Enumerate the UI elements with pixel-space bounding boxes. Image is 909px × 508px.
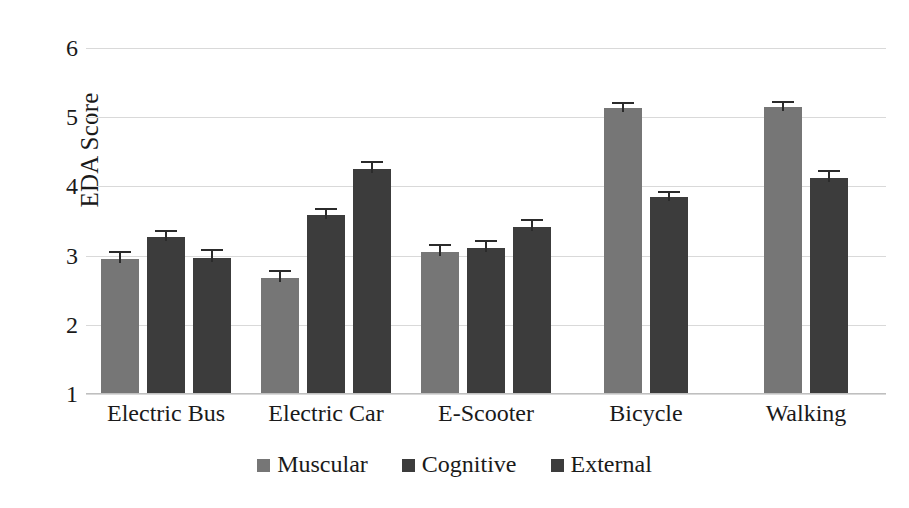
legend-item-external[interactable]: External [551,452,652,476]
y-axis-tick-label: 6 [38,35,78,62]
gridline [86,394,886,395]
x-axis-baseline [86,393,886,394]
gridline [86,48,886,49]
y-axis-tick-label: 5 [38,104,78,131]
legend-label: External [571,452,652,476]
bar-electric-car-muscular [261,278,299,394]
bar-walking-cognitive [810,178,848,394]
chart-legend: MuscularCognitiveExternal [0,452,909,476]
y-axis-tick-label: 2 [38,311,78,338]
bar-walking-muscular [764,107,802,394]
x-axis-tick-label-e-scooter: E-Scooter [438,400,534,427]
plot-area [86,48,886,394]
legend-swatch-icon [257,459,270,472]
x-axis-tick-label-walking: Walking [766,400,847,427]
legend-label: Cognitive [422,452,517,476]
legend-item-muscular[interactable]: Muscular [257,452,368,476]
x-axis-tick-label-electric-bus: Electric Bus [107,400,225,427]
legend-label: Muscular [277,452,368,476]
bar-electric-bus-muscular [101,259,139,394]
eda-score-bar-chart: EDA Score 654321 Electric BusElectric Ca… [0,0,909,508]
x-axis-tick-labels: Electric BusElectric CarE-ScooterBicycle… [86,400,886,436]
bar-electric-car-cognitive [307,215,345,394]
y-axis-tick-label: 3 [38,242,78,269]
x-axis-tick-label-electric-car: Electric Car [268,400,383,427]
bar-bicycle-cognitive [650,197,688,394]
bar-bicycle-muscular [604,108,642,394]
legend-swatch-icon [551,459,564,472]
bar-e-scooter-muscular [421,252,459,394]
legend-item-cognitive[interactable]: Cognitive [402,452,517,476]
legend-swatch-icon [402,459,415,472]
y-axis-tick-labels: 654321 [26,48,78,394]
bar-electric-bus-cognitive [147,237,185,394]
bar-electric-car-external [353,169,391,394]
y-axis-tick-label: 1 [38,381,78,408]
bar-e-scooter-cognitive [467,248,505,394]
x-axis-tick-label-bicycle: Bicycle [609,400,682,427]
y-axis-tick-label: 4 [38,173,78,200]
bar-electric-bus-external [193,258,231,394]
bar-e-scooter-external [513,227,551,394]
